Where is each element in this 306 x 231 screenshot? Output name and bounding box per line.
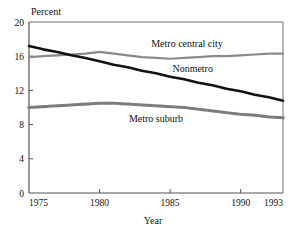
x-tick-label: 1975: [29, 198, 48, 208]
y-tick-label: 16: [15, 52, 25, 62]
x-axis-title: Year: [144, 215, 163, 226]
x-tick-label: 1980: [90, 198, 109, 208]
series-label-2: Metro suburb: [129, 113, 183, 124]
y-tick-label: 4: [19, 154, 24, 164]
axis-ticks: [29, 56, 241, 193]
data-series-group: [29, 46, 283, 118]
y-tick-label: 12: [15, 86, 25, 96]
x-tick-label: 1990: [231, 198, 250, 208]
y-tick-label: 8: [19, 120, 24, 130]
y-tick-label: 0: [19, 189, 24, 199]
y-axis-title: Percent: [31, 6, 61, 17]
y-tick-label: 20: [15, 18, 25, 28]
series-label-0: Metro central city: [151, 38, 223, 49]
x-tick-label: 1993: [264, 198, 283, 208]
line-chart: 04812162019751980198519901993 Metro cent…: [0, 0, 306, 231]
x-tick-label: 1985: [161, 198, 180, 208]
series-label-1: Nonmetro: [172, 63, 213, 74]
chart-container: 04812162019751980198519901993 Metro cent…: [0, 0, 306, 231]
